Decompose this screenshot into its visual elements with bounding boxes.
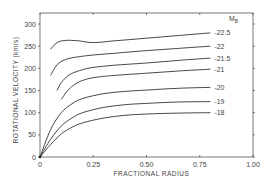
y-tick-label: 100 [24,109,36,116]
curve-mb-22.5 [51,33,211,49]
y-tick-label: 200 [24,65,36,72]
curve-mb-21 [61,69,210,99]
y-tick-label: 300 [24,21,36,28]
curves [39,33,211,158]
curve-mb-19 [40,102,210,157]
labels: -22.5-22-21.5-21-20-19-18MB [214,15,238,116]
x-tick-label: 1.00 [246,161,260,168]
curve-label: -22 [214,43,224,50]
curve-label: -19 [214,98,224,105]
y-tick-label: 50 [28,131,36,138]
axes: 05010015020025030000.250.500.751.00FRACT… [12,13,260,177]
x-tick-label: 0 [38,161,42,168]
y-tick-label: 250 [24,43,36,50]
y-tick-label: 0 [32,154,36,161]
x-tick-label: 0.25 [86,161,100,168]
legend-title: MB [229,15,239,24]
curve-mb-18 [40,113,210,157]
origin-marker [39,156,42,159]
x-tick-label: 0.50 [140,161,154,168]
rotation-curve-chart: 05010015020025030000.250.500.751.00FRACT… [0,0,274,184]
curve-label: -21.5 [214,55,230,62]
y-tick-label: 150 [24,87,36,94]
x-axis-label: FRACTIONAL RADIUS [114,170,190,177]
curve-mb-22 [51,46,211,75]
curve-label: -20 [214,84,224,91]
curve-label: -18 [214,109,224,116]
curve-label: -21 [214,66,224,73]
curve-label: -22.5 [214,29,230,36]
x-tick-label: 0.75 [193,161,207,168]
y-axis-label: ROTATIONAL VELOCITY (km/s) [12,36,20,143]
